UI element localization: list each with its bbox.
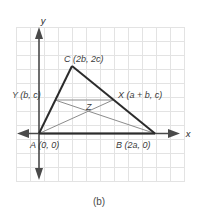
point-label-A: A (0, 0)	[29, 140, 59, 150]
x-axis-label: x	[185, 128, 192, 139]
point-label-Y: Y (b, c)	[12, 90, 41, 100]
geometry-figure: C (2b, 2c) X (a + b, c) Y (b, c) Z A (0,…	[0, 0, 198, 218]
point-label-X: X (a + b, c)	[117, 90, 162, 100]
point-label-C: C (2b, 2c)	[64, 54, 104, 64]
y-axis-label: y	[40, 15, 47, 26]
coordinate-plane-diagram: C (2b, 2c) X (a + b, c) Y (b, c) Z A (0,…	[0, 0, 198, 218]
grid-lines	[16, 27, 184, 182]
point-label-B: B (2a, 0)	[116, 140, 151, 150]
figure-caption: (b)	[93, 196, 105, 207]
point-label-Z: Z	[85, 102, 92, 112]
